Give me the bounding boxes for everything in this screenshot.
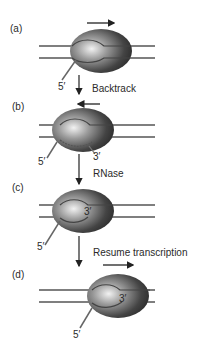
three-prime-label: 3′ (93, 152, 100, 162)
panel-label-a: (a) (10, 24, 22, 34)
panel-d (39, 274, 155, 328)
rna-polymerase (87, 274, 149, 318)
panel-a (39, 23, 155, 80)
three-prime-label: 3′ (119, 294, 126, 304)
panel-label-b: (b) (12, 102, 24, 112)
panel-label-d: (d) (12, 270, 24, 280)
rna-5prime-tail (62, 60, 76, 80)
panel-c (39, 189, 155, 245)
rna-5prime-tail (47, 142, 57, 158)
panel-b (39, 104, 155, 158)
step-label-rnase: RNase (93, 169, 124, 179)
five-prime-label: 5′ (58, 82, 65, 92)
rna-polymerase (70, 29, 132, 73)
rna-5prime-tail (45, 221, 60, 245)
step-label-backtrack: Backtrack (92, 84, 136, 94)
step-label-resume-transcription: Resume transcription (93, 248, 187, 258)
panel-label-c: (c) (12, 183, 24, 193)
five-prime-label: 5′ (37, 242, 44, 252)
rna-polymerase (52, 189, 114, 233)
three-prime-label: 3′ (84, 207, 91, 217)
rna-5prime-tail (80, 308, 92, 328)
five-prime-label: 5′ (38, 157, 45, 167)
five-prime-label: 5′ (73, 330, 80, 340)
